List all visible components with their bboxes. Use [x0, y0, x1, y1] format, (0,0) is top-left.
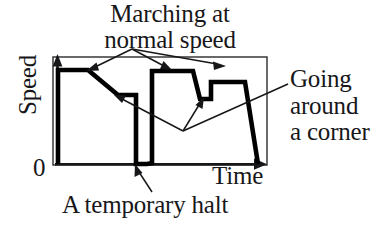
annotation-a-temporary-halt: A temporary halt: [62, 192, 228, 218]
temporary-halt-annotation-arrow: [135, 164, 153, 192]
going-around-corner-annotation-arrows: [114, 84, 288, 131]
origin-label: 0: [33, 155, 46, 181]
speed-curve: [58, 70, 258, 164]
y-axis-label: Speed: [15, 40, 41, 130]
speed-time-figure: Marching at normal speed Going around a …: [0, 0, 380, 225]
annotation-going-around-a-corner: Going around a corner: [290, 66, 370, 146]
x-axis-label: Time: [212, 163, 263, 189]
annotation-marching-at-normal-speed: Marching at normal speed: [0, 1, 340, 53]
